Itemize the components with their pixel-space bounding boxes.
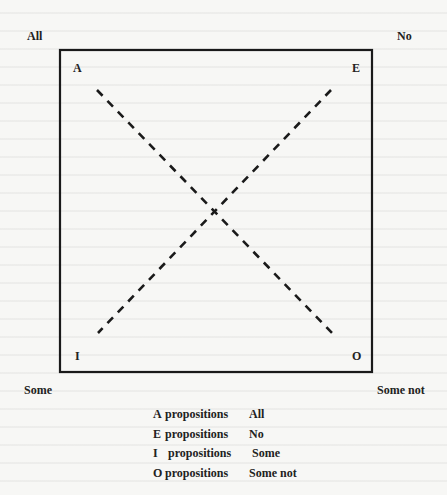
label-no: No (397, 30, 412, 42)
legend-word: propositions (165, 427, 249, 442)
legend-row-o: O propositions Some not (153, 464, 297, 484)
legend-meaning: No (249, 427, 264, 442)
corner-letter-o: O (352, 350, 361, 362)
corner-letter-e: E (352, 62, 360, 74)
legend-word: propositions (165, 446, 252, 461)
legend-row-i: I propositions Some (153, 444, 297, 464)
legend-meaning: All (249, 407, 264, 422)
legend-letter: E (153, 427, 165, 442)
legend-word: propositions (165, 407, 249, 422)
legend: A propositions All E propositions No I p… (153, 405, 297, 483)
legend-letter: O (153, 466, 165, 481)
label-some-not: Some not (377, 384, 425, 396)
legend-row-a: A propositions All (153, 405, 297, 425)
legend-letter: I (153, 446, 165, 461)
legend-meaning: Some (252, 446, 280, 461)
legend-word: propositions (165, 466, 249, 481)
legend-meaning: Some not (249, 466, 297, 481)
corner-letter-a: A (73, 62, 82, 74)
label-some: Some (24, 384, 52, 396)
label-all: All (27, 30, 42, 42)
corner-letter-i: I (75, 350, 80, 362)
legend-letter: A (153, 407, 165, 422)
legend-row-e: E propositions No (153, 425, 297, 445)
